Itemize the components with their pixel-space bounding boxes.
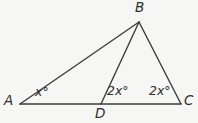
angle-label-2x-at-d: 2x° [107,84,129,98]
vertex-label-a: A [4,93,13,107]
angle-label-2x-at-c: 2x° [149,84,171,98]
triangle-figure: A B C D x° 2x° 2x° [0,0,198,123]
vertex-label-d: D [95,106,105,120]
vertex-label-c: C [184,93,193,107]
angle-label-x-at-a: x° [35,85,49,99]
vertex-label-b: B [135,0,144,14]
